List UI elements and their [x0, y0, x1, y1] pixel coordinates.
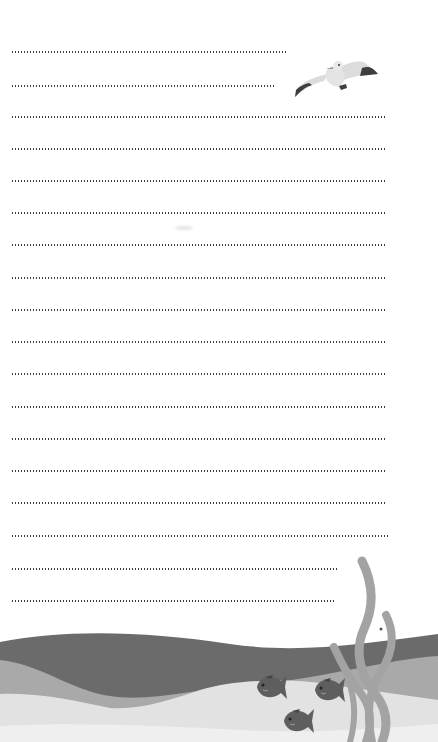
writing-line	[11, 116, 386, 118]
seagull-icon	[292, 50, 378, 100]
paper-smudge	[175, 226, 193, 230]
writing-line	[11, 212, 386, 214]
writing-line	[11, 438, 386, 440]
fish-icon	[255, 673, 297, 701]
writing-line	[11, 148, 386, 150]
writing-line	[11, 502, 386, 504]
writing-line	[11, 309, 386, 311]
writing-line	[11, 244, 386, 246]
writing-line	[11, 277, 386, 279]
writing-line	[11, 535, 390, 537]
writing-line	[11, 470, 386, 472]
fish-icon	[282, 707, 324, 735]
writing-line	[11, 51, 288, 53]
writing-line	[11, 406, 386, 408]
writing-line	[11, 568, 338, 570]
writing-line	[11, 373, 386, 375]
notepaper-page	[0, 0, 438, 742]
writing-line	[11, 180, 386, 182]
fish-icon	[313, 676, 355, 704]
writing-line	[11, 600, 335, 602]
writing-line	[11, 341, 386, 343]
writing-line	[11, 85, 274, 87]
